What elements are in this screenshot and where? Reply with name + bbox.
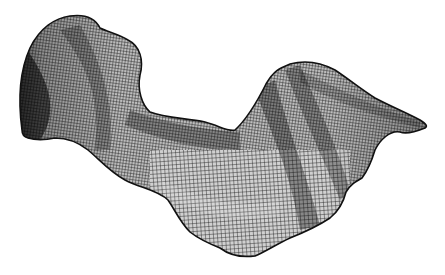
mesh-figure — [0, 0, 445, 275]
mesh-body — [0, 0, 445, 275]
wireframe-surface — [0, 0, 445, 275]
